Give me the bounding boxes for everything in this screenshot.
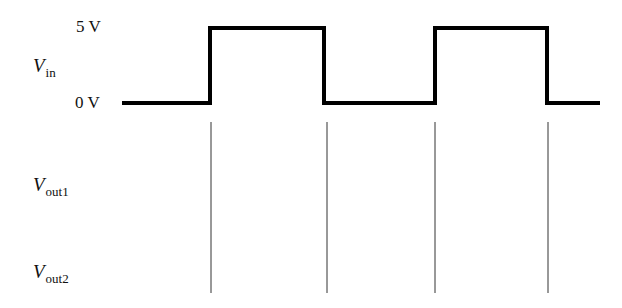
- edge-guide-lines: [211, 122, 548, 293]
- waveform-canvas: [0, 0, 622, 308]
- vin-square-wave: [122, 28, 600, 103]
